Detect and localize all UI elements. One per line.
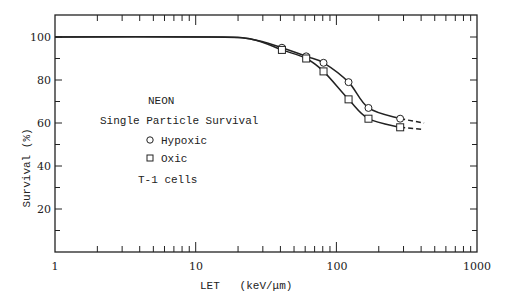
legend-hypoxic: Hypoxic: [161, 135, 207, 147]
data-point-hypoxic: [365, 104, 372, 111]
legend-subtitle: Single Particle Survival: [100, 115, 258, 127]
data-point-oxic: [278, 46, 285, 53]
legend-oxic: Oxic: [161, 153, 187, 165]
data-point-oxic: [365, 115, 372, 122]
data-point-hypoxic: [320, 59, 327, 66]
y-tick-80: 80: [37, 74, 51, 87]
x-tick-100: 100: [327, 260, 348, 273]
data-point-hypoxic: [345, 79, 352, 86]
legend-heading: NEON: [148, 95, 174, 107]
data-point-oxic: [397, 124, 404, 131]
x-axis-label: LET (keV/μm): [200, 280, 292, 292]
legend-square-icon: [147, 155, 153, 161]
y-tick-20: 20: [37, 203, 51, 216]
legend-cells: T-1 cells: [138, 174, 197, 186]
data-markers: [278, 44, 403, 131]
y-axis-label: Survival (%): [21, 128, 33, 207]
data-point-oxic: [320, 68, 327, 75]
data-point-oxic: [303, 55, 310, 62]
x-tick-1000: 1000: [463, 260, 491, 273]
curve-hypoxic: [55, 37, 400, 119]
y-axis-ticks: [55, 37, 477, 231]
survival-chart: 1 10 100 1000 20 40 60 80 100 LET (keV/μ…: [0, 0, 510, 304]
data-point-oxic: [345, 96, 352, 103]
plot-frame: [55, 15, 477, 252]
data-point-hypoxic: [397, 115, 404, 122]
y-tick-40: 40: [37, 160, 51, 173]
y-tick-60: 60: [37, 117, 51, 130]
x-tick-1: 1: [52, 260, 59, 273]
y-tick-100: 100: [30, 31, 51, 44]
legend-circle-icon: [147, 137, 153, 143]
x-tick-10: 10: [189, 260, 203, 273]
